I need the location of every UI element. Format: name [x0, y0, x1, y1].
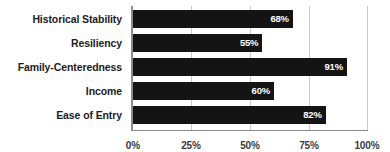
- x-tick-label-75: 75%: [299, 140, 319, 151]
- x-tick-label-25: 25%: [181, 140, 201, 151]
- bar-ease-of-entry: 82%: [133, 106, 326, 124]
- bar-resiliency: 55%: [133, 34, 262, 52]
- category-axis-labels: Historical Stability Resiliency Family-C…: [0, 0, 128, 130]
- gridline-100: [367, 6, 368, 130]
- x-tick-label-50: 50%: [240, 140, 260, 151]
- x-tick-label-0: 0%: [126, 140, 140, 151]
- x-axis-line: [131, 130, 368, 131]
- bar-value-label: 91%: [324, 58, 342, 76]
- bar-income: 60%: [133, 82, 274, 100]
- category-label-resiliency: Resiliency: [0, 38, 122, 49]
- category-label-family-centeredness: Family-Centeredness: [0, 62, 122, 73]
- category-label-income: Income: [0, 86, 122, 97]
- plot-area: 68% 55% 91% 60% 82% 0% 25% 50% 75%: [133, 6, 368, 130]
- bar-value-label: 68%: [270, 10, 288, 28]
- bar-value-label: 60%: [252, 82, 270, 100]
- category-label-ease-of-entry: Ease of Entry: [0, 110, 122, 121]
- bar-family-centeredness: 91%: [133, 58, 347, 76]
- x-tick-label-100: 100%: [354, 140, 379, 151]
- bar-historical-stability: 68%: [133, 10, 293, 28]
- bar-value-label: 82%: [303, 106, 321, 124]
- bar-value-label: 55%: [240, 34, 258, 52]
- category-label-historical-stability: Historical Stability: [0, 14, 122, 25]
- bar-chart: Historical Stability Resiliency Family-C…: [0, 0, 390, 152]
